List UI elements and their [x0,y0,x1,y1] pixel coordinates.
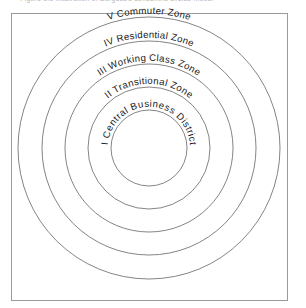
figure-root: Figure 1.1 Illustration of Burgess's con… [0,0,306,308]
concentric-zone-diagram: V Commuter ZoneIV Residential ZoneIII Wo… [0,0,306,308]
